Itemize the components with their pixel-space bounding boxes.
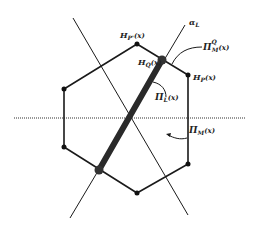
vertex-lower-left <box>62 145 67 150</box>
diagram-canvas: HP'(x) HQ(x) HP(x) αL ΠQM(x) ΠL(x) ΠM(x) <box>0 0 256 232</box>
label-pi-m: ΠM(x) <box>188 125 215 136</box>
label-h-p-prime: HP'(x) <box>119 30 145 41</box>
label-pi-m-q: ΠQM(x) <box>202 38 229 53</box>
vertex-top <box>135 42 140 47</box>
vertex-upper-right <box>186 73 191 78</box>
label-alpha-l: αL <box>189 17 199 28</box>
vertex-upper-left <box>62 87 67 92</box>
label-pi-l: ΠL(x) <box>154 92 179 103</box>
segment-endpoint-bottom <box>95 166 104 175</box>
vertex-bottom <box>135 191 140 196</box>
label-h-p: HP(x) <box>192 72 216 83</box>
pi-m-pointer <box>168 135 187 139</box>
vertex-lower-right <box>186 162 191 167</box>
pi-m-q-pointer <box>172 47 202 64</box>
